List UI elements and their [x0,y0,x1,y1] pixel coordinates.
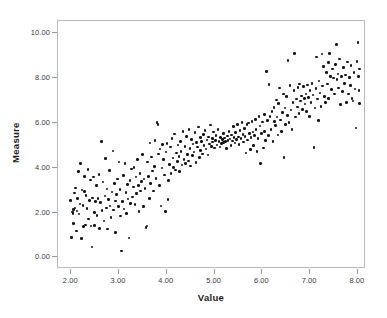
data-point [270,128,273,131]
data-point [251,120,254,123]
data-point [184,145,187,148]
data-point [191,154,194,157]
data-point [264,139,267,142]
data-point [110,216,113,219]
data-point [134,203,137,206]
data-point [322,65,325,68]
data-point [75,230,78,233]
x-tick-mark [309,269,310,274]
data-point [185,135,188,138]
data-point [112,209,115,212]
data-point [323,95,326,98]
data-point [74,207,77,210]
data-point [113,182,116,185]
data-point [101,209,104,212]
x-axis-title: Value [57,292,365,303]
data-point [137,184,140,187]
x-tick-label: 2.00 [50,276,90,285]
data-point [318,80,321,83]
data-point [87,218,90,221]
data-point [72,212,75,215]
data-point [312,94,315,97]
data-point [163,174,166,177]
data-point [274,124,277,127]
data-point [339,103,342,106]
data-point [136,158,139,161]
data-point [234,131,237,134]
data-point [126,183,129,186]
data-point [307,96,310,99]
data-point [332,77,335,80]
data-point [279,119,282,122]
data-point [250,136,253,139]
data-point [148,197,151,200]
data-point [200,140,203,143]
data-point [325,71,328,74]
x-tick-label: 8.00 [337,276,377,285]
data-point [183,158,186,161]
data-point [157,153,160,156]
data-point [259,125,262,128]
data-point [228,130,231,133]
data-point [87,168,90,171]
data-point [161,143,164,146]
data-point [311,82,314,85]
data-point [80,237,83,240]
data-point [213,147,216,150]
data-point [109,205,112,208]
data-point [72,222,75,225]
data-point [146,225,149,228]
data-point [320,105,323,108]
data-point [357,75,360,78]
data-point [207,154,210,157]
data-point [222,132,225,135]
data-point [194,131,197,134]
data-point [345,101,348,104]
data-point [348,76,351,79]
data-point [161,167,164,170]
data-point [174,169,177,172]
data-point [230,144,233,147]
data-point [327,97,330,100]
data-point [195,141,198,144]
data-point [164,210,167,213]
x-tick-mark [261,269,262,274]
data-point [232,125,235,128]
data-point [178,170,181,173]
data-point [266,119,269,122]
data-point [247,122,250,125]
data-point [346,61,349,64]
x-tick-label: 4.00 [146,276,186,285]
data-point [182,130,185,133]
data-point [162,158,165,161]
data-point [273,106,276,109]
data-point [198,156,201,159]
data-point [150,156,153,159]
data-point [211,137,214,140]
data-point [350,64,353,67]
data-point [252,144,255,147]
data-point [271,110,274,113]
data-point [305,93,308,96]
data-point [285,95,288,98]
data-point [335,43,338,46]
data-point [73,192,76,195]
data-point [187,160,190,163]
data-point [181,164,184,167]
data-point [215,134,218,137]
data-point [301,108,304,111]
data-point [277,134,280,137]
data-point [287,59,290,62]
data-point [70,236,73,239]
data-point [342,66,345,69]
data-point [172,157,175,160]
data-point [97,197,100,200]
data-point [298,112,301,115]
data-point [202,133,205,136]
data-point [286,114,289,117]
data-point [149,142,152,145]
data-point [149,182,152,185]
data-point [114,200,117,203]
data-point [83,175,86,178]
data-point [313,146,316,149]
